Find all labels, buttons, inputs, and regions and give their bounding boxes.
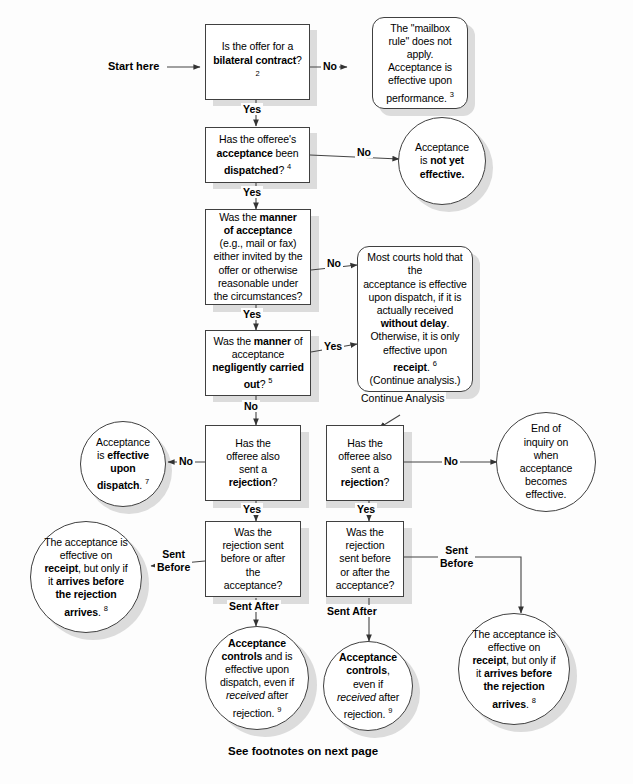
continue-analysis-label: Continue Analysis [359,392,446,404]
decision-before-or-after-left-text: Was therejection sentbefore or afterthea… [216,524,290,594]
outcome-acceptance-controls-right-text: Acceptancecontrols,even ifreceived after… [327,649,409,723]
decision-before-or-after-right[interactable]: Was therejectionsent beforeor after thea… [326,521,404,597]
outcome-effective-on-receipt-left-text: The acceptance iseffective onreceipt, bu… [34,534,138,621]
edge-label-q4-yes: Yes [322,340,344,352]
decision-rejection-sent-left-text: Has theofferee alsosent arejection? [221,435,284,492]
outcome-mailbox-rule-not-apply[interactable]: The "mailboxrule" does notapply.Acceptan… [372,17,468,109]
outcome-most-courts-hold[interactable]: Most courts hold that theacceptance is e… [357,246,473,392]
edge-label-q4-no: No [242,400,260,412]
decision-manner-invited-text: Was the mannerof acceptance(e.g., mail o… [209,209,308,305]
decision-rejection-sent-right-text: Has theofferee alsosent arejection? [333,435,396,492]
decision-negligently-carried-out[interactable]: Was the manner ofacceptancenegligently c… [205,330,311,396]
edge-label-q6-right-sent-after: Sent After [325,605,379,617]
edge-label-q3-no: No [325,257,343,269]
edge-label-q5-left-no: No [177,455,195,467]
outcome-not-yet-effective-text: Acceptanceis not yeteffective. [405,139,479,183]
edge-label-q1-no: No [321,60,339,72]
edge-label-q6-left-sent-before: SentBefore [155,548,192,574]
edge-label-q6-left-sent-after: Sent After [227,600,281,612]
decision-rejection-sent-right[interactable]: Has theofferee alsosent arejection? [326,425,404,501]
decision-rejection-sent-left[interactable]: Has theofferee alsosent arejection? [205,425,301,501]
edge-label-q6-right-sent-before: SentBefore [438,544,475,570]
decision-bilateral-contract-text: Is the offer for abilateral contract?2 [208,38,307,85]
outcome-end-of-inquiry[interactable]: End ofinquiry onwhenacceptancebecomeseff… [496,412,596,512]
outcome-acceptance-controls-left[interactable]: Acceptancecontrols and iseffective upond… [205,626,309,730]
decision-manner-of-acceptance-invited[interactable]: Was the mannerof acceptance(e.g., mail o… [205,209,311,305]
decision-bilateral-contract[interactable]: Is the offer for abilateral contract?2 [205,24,310,100]
footer-note: See footnotes on next page [228,745,378,757]
decision-before-or-after-left[interactable]: Was therejection sentbefore or afterthea… [205,521,301,597]
edge-label-q5-right-no: No [442,455,460,467]
outcome-effective-on-receipt-right[interactable]: The acceptance iseffective onreceipt, bu… [458,613,570,725]
edge-label-q2-yes: Yes [241,186,263,198]
outcome-mailbox-rule-text: The "mailboxrule" does notapply.Acceptan… [381,20,459,107]
outcome-effective-upon-dispatch-text: Acceptanceis effectiveupondispatch. 7 [86,434,160,494]
flowchart-canvas: Is the offer for abilateral contract?2 T… [0,0,633,784]
decision-acceptance-dispatched-text: Has the offeree'sacceptance beendispatch… [212,131,304,178]
outcome-acceptance-controls-right[interactable]: Acceptancecontrols,even ifreceived after… [323,641,413,731]
outcome-end-of-inquiry-text: End ofinquiry onwhenacceptancebecomeseff… [510,420,583,503]
edge-label-q1-yes: Yes [241,103,263,115]
edge-label-q2-no: No [355,146,373,158]
decision-acceptance-dispatched[interactable]: Has the offeree'sacceptance beendispatch… [205,127,310,183]
outcome-effective-on-receipt-left[interactable]: The acceptance iseffective onreceipt, bu… [30,521,142,633]
decision-before-or-after-right-text: Was therejectionsent beforeor after thea… [331,524,399,594]
outcome-not-yet-effective[interactable]: Acceptanceis not yeteffective. [398,117,486,205]
outcome-effective-upon-dispatch[interactable]: Acceptanceis effectiveupondispatch. 7 [80,421,166,507]
edge-label-q5-right-yes: Yes [355,503,377,515]
outcome-effective-on-receipt-right-text: The acceptance iseffective onreceipt, bu… [462,626,566,713]
outcome-most-courts-text: Most courts hold that theacceptance is e… [358,249,472,389]
edge-label-q3-yes: Yes [241,308,263,320]
edge-label-q5-left-yes: Yes [241,503,263,515]
start-here-label: Start here [108,60,159,72]
decision-negligently-text: Was the manner ofacceptancenegligently c… [207,333,308,393]
outcome-acceptance-controls-left-text: Acceptancecontrols and iseffective upond… [210,635,304,722]
